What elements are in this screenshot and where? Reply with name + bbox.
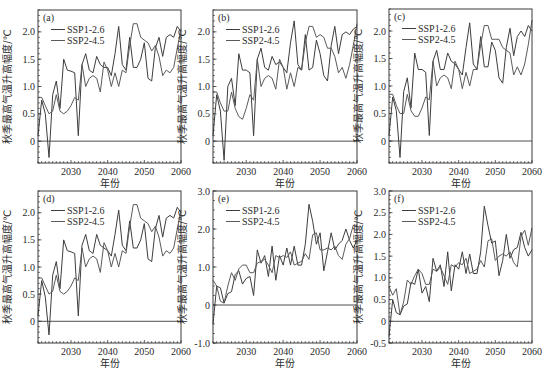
y-tick-label: 1.0 [23,81,36,92]
y-tick-label: 2.0 [198,224,211,235]
plot-frame [38,191,181,343]
y-tick-label: 0 [205,300,210,311]
legend-label: SSP2-4.5 [418,34,456,45]
legend-label: SSP1-2.6 [418,205,456,216]
y-tick-label: 1.0 [23,262,36,273]
panel-f: 2030204020502060-0.500.51.01.52.02.53.0(… [352,186,542,370]
y-tick-label: 0 [205,136,210,147]
y-axis-label: 秋季最高气温升高幅度/℃ [352,210,364,325]
plot-frame [38,10,181,163]
y-tick-label: 0 [381,136,386,147]
panel-a: 203020402050206000.51.01.52.0(a)SSP1-2.6… [1,10,191,189]
legend-label: SSP1-2.6 [418,23,456,34]
panel-label: (d) [43,193,55,205]
x-tick-label: 2040 [273,346,293,357]
y-axis-label: 秋季最高气温升高幅度/℃ [176,29,188,144]
y-tick-label: 3.0 [374,186,387,197]
panel-label: (b) [218,12,230,24]
series-line-ssp1-2-6 [38,207,181,335]
y-tick-label: 2.0 [374,26,387,37]
y-tick-label: 1.5 [23,234,36,245]
y-tick-label: 0.5 [374,294,387,305]
x-axis-label: 年份 [451,177,471,189]
y-axis-label: 秋季最高气温升高幅度/℃ [176,210,188,325]
panel-label: (e) [218,193,229,205]
legend-label: SSP2-4.5 [418,216,456,227]
y-axis-label: 秋季最高气温升高幅度/℃ [1,210,13,325]
x-tick-label: 2060 [171,166,191,177]
series-line-ssp2-4-5 [38,24,181,114]
x-tick-label: 2030 [236,166,256,177]
y-axis-label: 秋季最高气温升高幅度/℃ [1,29,13,144]
y-tick-label: 2.0 [198,26,211,37]
series-line-ssp2-4-5 [389,228,532,315]
legend-label: SSP2-4.5 [67,216,105,227]
plot-frame [213,191,357,343]
x-tick-label: 2060 [171,346,191,357]
y-tick-label: 1.0 [374,272,387,283]
panel-label: (a) [43,12,54,24]
x-tick-label: 2060 [522,346,542,357]
y-tick-label: 1.0 [374,81,387,92]
y-tick-label: 0 [30,136,35,147]
x-tick-label: 2030 [236,346,256,357]
legend-label: SSP1-2.6 [242,205,280,216]
y-tick-label: 3.0 [198,186,211,197]
series-line-ssp1-2-6 [389,206,532,336]
panel-d: 203020402050206000.51.01.52.0(d)SSP1-2.6… [1,191,191,369]
x-tick-label: 2030 [61,166,81,177]
series-line-ssp2-4-5 [213,24,357,120]
y-tick-label: 1.0 [198,262,211,273]
x-tick-label: 2050 [485,346,505,357]
legend-label: SSP2-4.5 [242,216,280,227]
legend-label: SSP1-2.6 [242,24,280,35]
x-tick-label: 2060 [347,166,367,177]
x-tick-label: 2040 [449,166,469,177]
x-axis-label: 年份 [275,357,295,369]
legend-label: SSP1-2.6 [67,205,105,216]
panel-label: (f) [394,193,404,205]
panel-e: 2030204020502060-1.001.02.03.0(e)SSP1-2.… [176,186,367,370]
series-line-ssp1-2-6 [389,23,532,158]
y-tick-label: -1.0 [194,338,210,349]
x-tick-label: 2030 [412,346,432,357]
legend-label: SSP2-4.5 [67,35,105,46]
x-tick-label: 2040 [449,346,469,357]
x-axis-label: 年份 [100,357,120,369]
y-tick-label: 1.5 [198,54,211,65]
x-tick-label: 2040 [98,166,118,177]
x-tick-label: 2050 [310,346,330,357]
y-tick-label: 2.0 [23,207,36,218]
y-tick-label: 0.5 [198,108,211,119]
panel-c: 203020402050206000.51.01.52.0(c)SSP1-2.6… [352,9,542,189]
x-tick-label: 2040 [98,346,118,357]
y-tick-label: 0.5 [23,108,36,119]
series-line-ssp1-2-6 [213,21,357,160]
y-tick-label: 0.5 [23,289,36,300]
x-tick-label: 2050 [134,346,154,357]
legend-label: SSP2-4.5 [242,35,280,46]
y-tick-label: 1.5 [374,53,387,64]
x-axis-label: 年份 [100,177,120,189]
y-tick-label: 2.0 [23,26,36,37]
legend-label: SSP1-2.6 [67,24,105,35]
plot-frame [389,191,532,343]
y-tick-label: 1.5 [374,251,387,262]
x-tick-label: 2030 [61,346,81,357]
y-tick-label: 2.5 [374,207,387,218]
x-tick-label: 2050 [485,166,505,177]
x-tick-label: 2050 [310,166,330,177]
series-line-ssp1-2-6 [213,204,357,324]
y-axis-label: 秋季最高气温升高幅度/℃ [352,29,364,144]
panel-b: 203020402050206000.51.01.52.0(b)SSP1-2.6… [176,10,367,189]
x-tick-label: 2060 [522,166,542,177]
figure: 203020402050206000.51.01.52.0(a)SSP1-2.6… [0,0,551,373]
x-axis-label: 年份 [451,357,471,369]
y-tick-label: 0 [381,316,386,327]
x-tick-label: 2050 [134,166,154,177]
y-tick-label: 1.0 [198,81,211,92]
panel-label: (c) [394,11,405,23]
y-tick-label: 1.5 [23,54,36,65]
y-tick-label: 0.5 [374,108,387,119]
series-line-ssp1-2-6 [38,26,181,157]
